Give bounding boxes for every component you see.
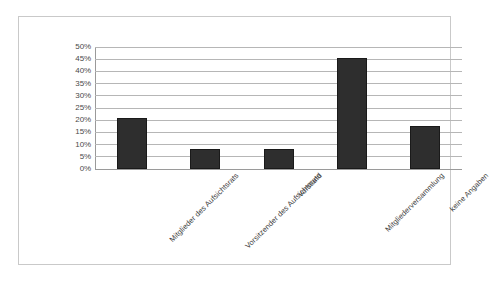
x-axis-category-label: Mitglieder des Aufsichtsrats [167, 171, 240, 244]
gridline [95, 59, 462, 60]
gridline [95, 144, 462, 145]
y-axis-tick-label: 15% [57, 128, 91, 136]
y-axis-tick-label: 40% [57, 67, 91, 75]
gridline [95, 132, 462, 133]
bar [190, 149, 220, 169]
x-axis-category-label: keine Angaben [448, 171, 490, 213]
bar [264, 149, 294, 169]
chart-frame: 0%5%10%15%20%25%30%35%40%45%50% Mitglied… [18, 16, 451, 265]
y-axis-tick-label: 45% [57, 55, 91, 63]
plot-area [95, 47, 462, 169]
y-axis-tick-label: 5% [57, 153, 91, 161]
x-axis-category-labels: Mitglieder des AufsichtsratsVorsitzender… [95, 171, 462, 271]
bar [410, 126, 440, 169]
y-axis-tick-label: 50% [57, 43, 91, 51]
bar [117, 118, 147, 169]
y-axis-tick-labels: 0%5%10%15%20%25%30%35%40%45%50% [57, 47, 91, 169]
y-axis-tick-label: 20% [57, 116, 91, 124]
gridline [95, 120, 462, 121]
x-axis-category-label: Mitgliederversammlung [383, 171, 446, 234]
gridline [95, 83, 462, 84]
gridline [95, 71, 462, 72]
gridline [95, 47, 462, 48]
bar [337, 58, 367, 169]
y-axis-tick-label: 0% [57, 165, 91, 173]
y-axis-tick-label: 35% [57, 80, 91, 88]
y-axis-tick-label: 30% [57, 92, 91, 100]
gridline [95, 108, 462, 109]
y-axis-tick-label: 10% [57, 141, 91, 149]
x-axis-category-label: Vorstand [295, 171, 323, 199]
gridline [95, 95, 462, 96]
y-axis-tick-label: 25% [57, 104, 91, 112]
